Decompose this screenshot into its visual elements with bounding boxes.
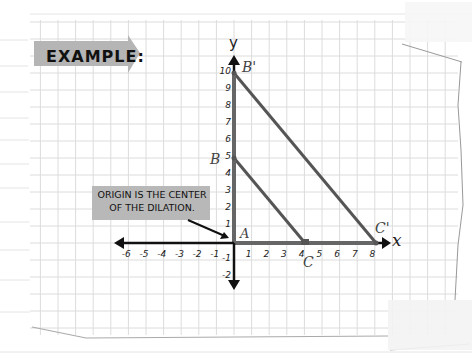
x-tick-label: 1: [246, 249, 252, 259]
callout-line-2: OF THE DILATION.: [92, 201, 212, 214]
dilation-diagram: EXAMPLE: ORIGIN IS THE CENTER OF THE DIL…: [0, 0, 472, 364]
y-tick-label: 5: [225, 151, 231, 161]
y-tick-label: 9: [225, 83, 231, 93]
y-tick-label: 10: [220, 66, 231, 76]
y-tick-label: 2: [225, 202, 231, 212]
x-tick-label: -4: [157, 249, 166, 259]
y-tick-label: 4: [225, 168, 231, 178]
label-B: B: [210, 151, 220, 167]
y-tick-label: -1: [222, 253, 231, 263]
x-tick-label: 3: [281, 249, 287, 259]
label-C-prime: C': [375, 220, 390, 236]
point-B-prime: [232, 71, 237, 76]
x-tick-label: -2: [193, 249, 202, 259]
point-B: [232, 156, 237, 161]
label-A: A: [240, 226, 249, 241]
y-tick-label: 7: [225, 117, 231, 127]
y-tick-label: 6: [225, 134, 231, 144]
example-title: EXAMPLE:: [46, 47, 145, 66]
callout-line-1: ORIGIN IS THE CENTER: [92, 188, 212, 201]
x-tick-label: -5: [140, 249, 149, 259]
callout-note: ORIGIN IS THE CENTER OF THE DILATION.: [92, 188, 212, 214]
x-tick-label: -6: [122, 249, 131, 259]
x-tick-label: -1: [210, 249, 219, 259]
x-tick-label: 5: [317, 249, 323, 259]
label-B-prime: B': [242, 59, 256, 75]
x-tick-label: 6: [334, 249, 340, 259]
y-tick-label: -2: [222, 270, 231, 280]
y-tick-label: 1: [225, 219, 231, 229]
point-C-prime: [374, 241, 379, 246]
x-tick-label: -3: [175, 249, 184, 259]
x-tick-label: 2: [263, 249, 269, 259]
y-tick-label: 3: [225, 185, 231, 195]
y-axis-label: y: [229, 34, 238, 52]
x-tick-label: 7: [352, 249, 358, 259]
label-C: C: [303, 254, 314, 270]
point-C: [301, 239, 309, 245]
x-tick-label: 8: [370, 249, 376, 259]
x-axis-label: x: [392, 230, 402, 250]
y-tick-label: 8: [225, 100, 231, 110]
